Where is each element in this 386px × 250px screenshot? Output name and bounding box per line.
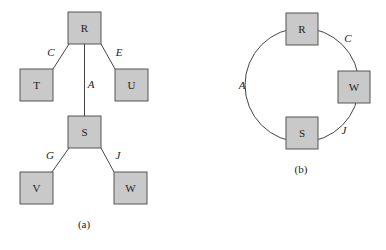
- node-r-b: R: [286, 13, 318, 45]
- edge-label-a: A: [87, 78, 95, 90]
- diagram-b: C J A R W S (b): [238, 13, 370, 176]
- node-u: U: [115, 69, 148, 101]
- node-w: W: [114, 172, 147, 204]
- edge-label-a-b: A: [238, 79, 246, 91]
- svg-text:W: W: [349, 81, 360, 93]
- svg-text:T: T: [33, 79, 40, 91]
- node-v: V: [20, 172, 53, 204]
- caption-b: (b): [295, 163, 308, 176]
- diagram-a: C E A G J R T U S V W (a): [20, 12, 148, 231]
- diagram-canvas: C E A G J R T U S V W (a): [0, 0, 386, 250]
- node-s: S: [68, 116, 101, 148]
- edge-label-c: C: [47, 46, 55, 58]
- edge-label-e: E: [115, 46, 123, 58]
- svg-text:S: S: [299, 127, 305, 139]
- edge-label-c-b: C: [344, 32, 352, 44]
- node-w-b: W: [338, 71, 370, 103]
- edge-r-u: [101, 44, 115, 69]
- edge-label-g: G: [46, 149, 54, 161]
- svg-text:R: R: [298, 23, 306, 35]
- node-s-b: S: [286, 117, 318, 149]
- edge-label-j: J: [116, 149, 122, 161]
- svg-text:V: V: [33, 182, 41, 194]
- node-t: T: [20, 69, 53, 101]
- svg-text:U: U: [128, 79, 136, 91]
- svg-text:W: W: [125, 182, 136, 194]
- svg-text:R: R: [81, 22, 89, 34]
- svg-text:S: S: [81, 126, 87, 138]
- edge-s-w: [101, 148, 114, 172]
- node-r: R: [68, 12, 101, 44]
- edge-r-t: [53, 44, 69, 69]
- edge-label-j-b: J: [342, 124, 348, 136]
- caption-a: (a): [78, 218, 91, 231]
- edge-s-v: [52, 148, 69, 172]
